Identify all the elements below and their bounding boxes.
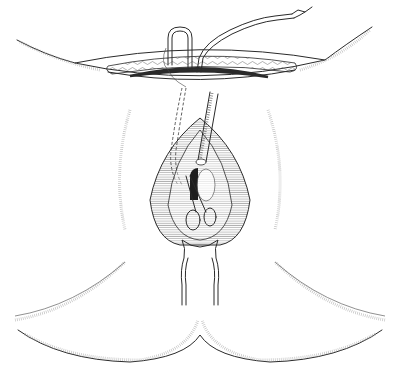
illustration-svg	[0, 0, 398, 376]
surgical-illustration	[0, 0, 398, 376]
buttocks-outline	[18, 320, 382, 362]
sling-tube	[163, 7, 312, 87]
vulva-region	[150, 118, 250, 245]
abdominal-incision	[17, 27, 372, 80]
retractor	[181, 240, 218, 305]
